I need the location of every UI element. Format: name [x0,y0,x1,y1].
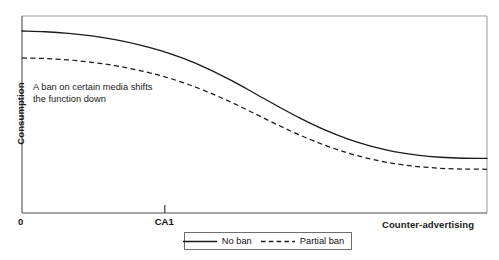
legend-swatch-solid-icon [183,238,217,245]
annotation-line-1: A ban on certain media shifts [33,81,152,93]
legend-swatch-dashed-icon [261,238,295,245]
legend-entry-partial-ban: Partial ban [261,236,353,246]
chart-legend: No ban Partial ban [184,232,352,250]
plot-frame [22,16,487,213]
legend-label-no-ban: No ban [222,236,252,246]
legend-label-partial-ban: Partial ban [300,236,344,246]
x-tick-label-ca1: CA1 [155,216,174,227]
annotation-line-2: the function down [33,93,152,105]
curve-partial-ban [22,58,487,169]
x-tick-label-origin: 0 [18,216,23,227]
legend-entry-no-ban: No ban [183,236,261,246]
x-axis-title: Counter-advertising [382,219,474,230]
chart-annotation: A ban on certain media shifts the functi… [33,81,152,105]
y-axis-title: Consumption [15,69,26,159]
chart-figure: Consumption Counter-advertising 0 CA1 A … [0,0,499,260]
